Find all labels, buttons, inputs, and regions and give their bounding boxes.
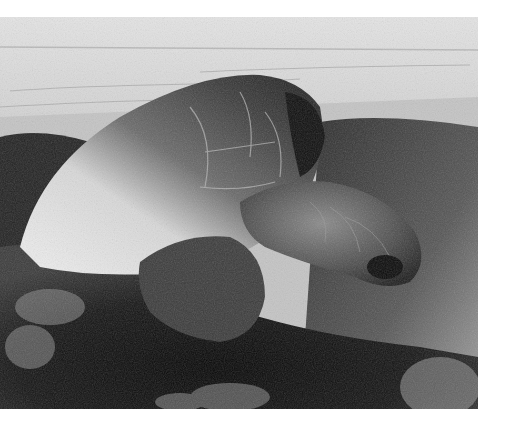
turtle-photo-illustration	[0, 17, 478, 409]
turtle-photo: Black-and-white photograph of a large se…	[0, 17, 478, 409]
film-grain	[0, 17, 478, 409]
